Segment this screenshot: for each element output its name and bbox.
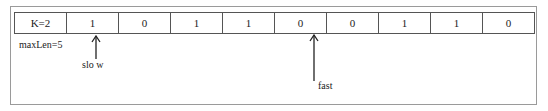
- fast-pointer-label: fast: [318, 80, 332, 91]
- max-len-label: maxLen=5: [19, 39, 62, 50]
- array-cell-8: 0: [483, 13, 534, 33]
- array-header-cell: K=2: [15, 13, 67, 33]
- array-cell-2: 1: [171, 13, 223, 33]
- fast-pointer-arrow-icon: [309, 34, 319, 81]
- array-row: K=2 1 0 1 1 0 0 1 1 0: [14, 12, 535, 34]
- slow-pointer-arrow-icon: [91, 35, 101, 59]
- array-cell-0: 1: [67, 13, 119, 33]
- array-cell-1: 0: [119, 13, 171, 33]
- array-cell-3: 1: [223, 13, 275, 33]
- slow-pointer-label: slo w: [82, 59, 103, 70]
- array-cell-7: 1: [431, 13, 483, 33]
- array-cell-4: 0: [275, 13, 327, 33]
- array-cell-6: 1: [379, 13, 431, 33]
- array-cell-5: 0: [327, 13, 379, 33]
